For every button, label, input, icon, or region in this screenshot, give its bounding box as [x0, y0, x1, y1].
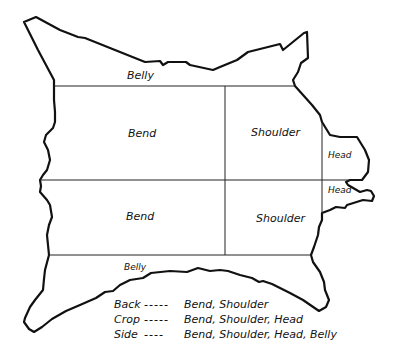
legend-dashes: ----- [144, 312, 184, 327]
label-belly-top: Belly [127, 70, 154, 81]
legend-dashes: ---- [144, 327, 184, 342]
legend-term: Side [114, 327, 144, 342]
label-belly-bottom: Belly [124, 263, 146, 272]
cut-legend: Back ----- Bend, Shoulder Crop ----- Ben… [114, 297, 337, 342]
label-head-top: Head [328, 151, 352, 160]
legend-parts: Bend, Shoulder [184, 297, 268, 312]
legend-row-back: Back ----- Bend, Shoulder [114, 297, 337, 312]
label-bend-bottom: Bend [126, 211, 154, 222]
legend-row-crop: Crop ----- Bend, Shoulder, Head [114, 312, 337, 327]
legend-term: Back [114, 297, 144, 312]
legend-dashes: ----- [144, 297, 184, 312]
label-shoulder-bottom: Shoulder [256, 213, 305, 224]
legend-row-side: Side ---- Bend, Shoulder, Head, Belly [114, 327, 337, 342]
label-head-bottom: Head [328, 186, 352, 195]
label-bend-top: Bend [128, 128, 156, 139]
legend-parts: Bend, Shoulder, Head [184, 312, 303, 327]
legend-term: Crop [114, 312, 144, 327]
label-shoulder-top: Shoulder [251, 127, 300, 138]
legend-parts: Bend, Shoulder, Head, Belly [184, 327, 337, 342]
